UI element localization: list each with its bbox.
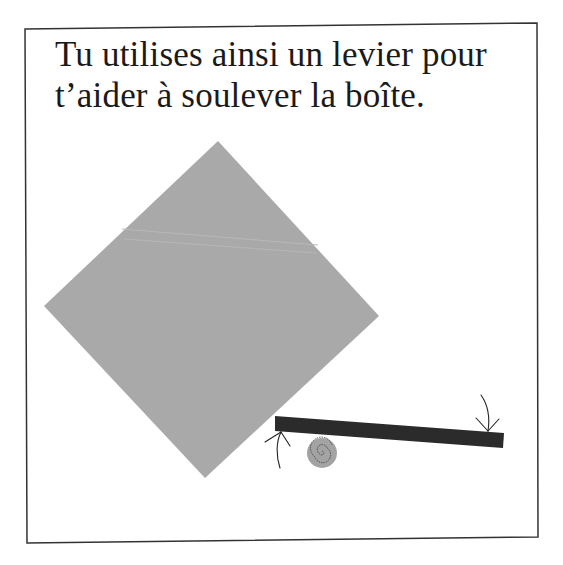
caption-line-2: t’aider à soulever la boîte. xyxy=(55,75,535,116)
up-arrow-icon xyxy=(265,432,290,468)
caption-text: Tu utilises ainsi un levier pour t’aider… xyxy=(55,34,535,116)
illustration-page: Tu utilises ainsi un levier pour t’aider… xyxy=(0,0,563,565)
caption-line-1: Tu utilises ainsi un levier pour xyxy=(55,34,535,75)
fulcrum-spiral-icon xyxy=(307,437,337,468)
lever-bar xyxy=(275,416,504,448)
down-arrow-icon xyxy=(476,395,499,431)
